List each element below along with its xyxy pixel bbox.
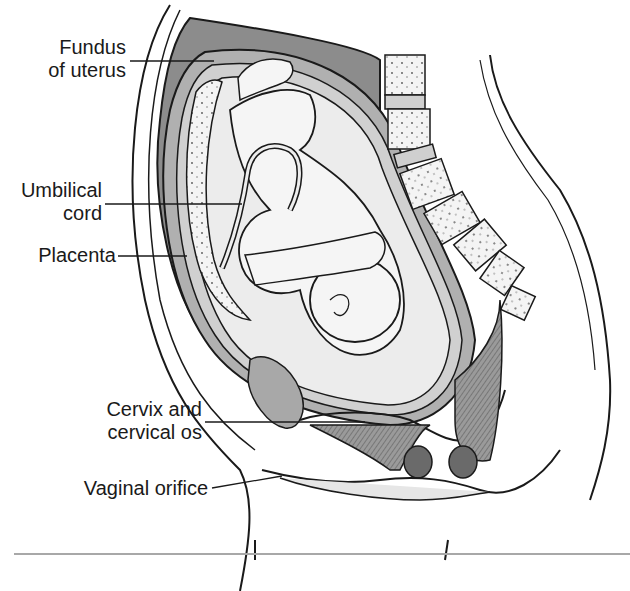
label-placenta-line1: Placenta — [24, 244, 116, 267]
label-fundus-line2: of uterus — [40, 59, 126, 82]
bottom-divider — [14, 553, 630, 555]
label-vaginal-line1: Vaginal orifice — [78, 477, 208, 500]
label-cervix-and-cervical-os: Cervix and cervical os — [96, 398, 202, 444]
anatomy-figure — [0, 0, 630, 591]
label-umbilical-cord: Umbilical cord — [10, 179, 102, 225]
label-fundus-line1: Fundus — [40, 36, 126, 59]
label-cervix-line1: Cervix and — [96, 398, 202, 421]
pregnant-uterus-illustration — [0, 0, 630, 591]
label-umbilical-line1: Umbilical — [10, 179, 102, 202]
label-placenta: Placenta — [24, 244, 116, 267]
label-vaginal-orifice: Vaginal orifice — [78, 477, 208, 500]
label-cervix-line2: cervical os — [96, 421, 202, 444]
label-fundus-of-uterus: Fundus of uterus — [40, 36, 126, 82]
label-umbilical-line2: cord — [10, 202, 102, 225]
